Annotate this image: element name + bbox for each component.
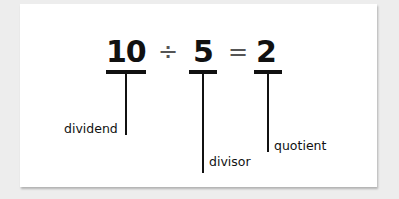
diagram-card <box>20 4 377 187</box>
divisor-pointer-line <box>202 72 204 173</box>
dividend-pointer-line <box>125 72 127 135</box>
equals-symbol: = <box>228 40 248 64</box>
divisor-number: 5 <box>193 37 213 67</box>
divisor-label: divisor <box>209 156 251 169</box>
quotient-number: 2 <box>256 37 276 67</box>
quotient-pointer-line <box>267 72 269 152</box>
quotient-label: quotient <box>274 140 326 153</box>
dividend-label: dividend <box>64 123 118 136</box>
dividend-number: 10 <box>106 37 146 67</box>
divide-symbol: ÷ <box>158 40 178 64</box>
